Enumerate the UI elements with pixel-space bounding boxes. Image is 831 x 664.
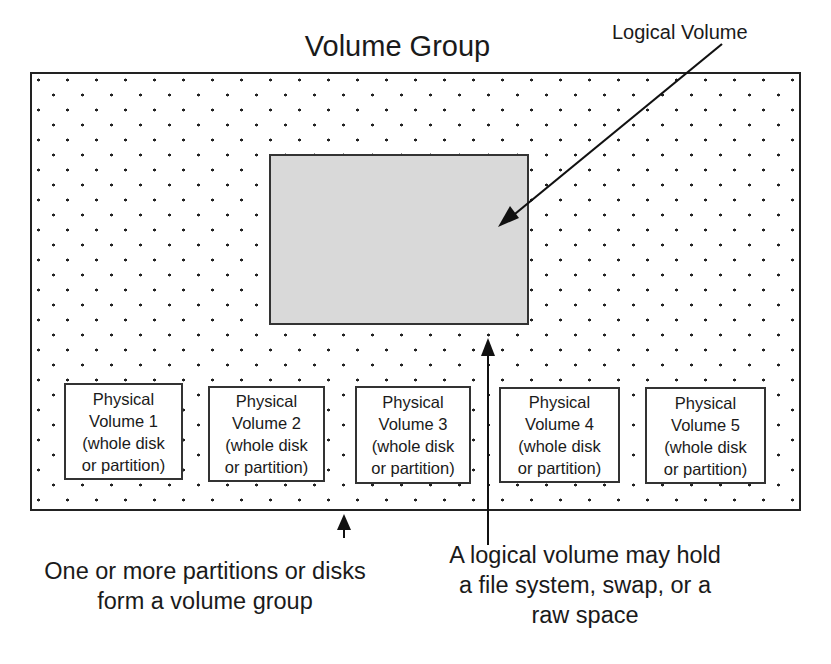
caption-line: raw space [420,600,750,630]
arrow-up-logical-volume-icon [481,338,495,545]
caption-line: One or more partitions or disks [10,556,400,586]
arrow-logical-volume-icon [498,44,722,227]
caption-line: a file system, swap, or a [420,570,750,600]
caption-logical-volume: A logical volume may hold a file system,… [420,540,750,630]
caption-volume-group: One or more partitions or disks form a v… [10,556,400,616]
caption-line: A logical volume may hold [420,540,750,570]
arrow-up-volume-group-icon [337,514,351,538]
caption-line: form a volume group [10,586,400,616]
